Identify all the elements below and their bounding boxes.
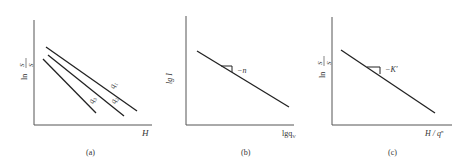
x-label-c: H / qn	[424, 129, 444, 138]
panel-c: −K′ ln S S H / qn (c)	[316, 17, 452, 157]
svg-text:ln: ln	[318, 72, 327, 78]
svg-text:S: S	[18, 63, 26, 67]
label-q2: q2	[108, 95, 120, 105]
y-label-c: ln S S	[316, 56, 333, 78]
label-q1: q1	[107, 80, 119, 90]
y-label-a: ln S S	[18, 58, 35, 80]
panel-b: −n lg I lgqV (b)	[165, 16, 296, 157]
caption-a: (a)	[86, 148, 95, 157]
y-label-b: lg I	[165, 73, 174, 84]
svg-text:ln: ln	[20, 74, 29, 80]
caption-c: (c)	[388, 148, 397, 157]
svg-text:S: S	[325, 61, 333, 65]
label-q3: q3	[86, 95, 98, 105]
series-line-c	[341, 50, 435, 113]
x-label-b: lgqV	[282, 129, 296, 139]
series-line-b	[197, 51, 289, 107]
slope-label-c: −K′	[385, 65, 398, 74]
slope-label-b: −n	[237, 66, 246, 75]
x-label-a: H	[141, 128, 149, 138]
figure: q1 q2 q3 ln S S H (a) −n lg I lgqV (b) −	[0, 0, 460, 164]
series-line-q3	[43, 59, 96, 113]
svg-text:S: S	[27, 63, 35, 67]
caption-b: (b)	[241, 148, 251, 157]
panel-a: q1 q2 q3 ln S S H (a)	[18, 20, 152, 157]
svg-text:S: S	[316, 61, 324, 65]
